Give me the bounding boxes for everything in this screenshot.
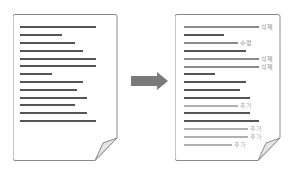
- right-arrow-icon: [130, 72, 170, 90]
- change-label: 추가: [250, 126, 262, 132]
- revised-document: 삭제수정삭제삭제추가추가추가추가: [175, 14, 281, 161]
- text-line: [20, 120, 96, 122]
- text-line: [184, 97, 250, 99]
- text-line: [20, 58, 96, 60]
- change-label: 추가: [240, 103, 252, 109]
- text-line: [184, 34, 224, 36]
- text-line: [184, 144, 232, 146]
- document-page-icon: [13, 14, 118, 161]
- text-line: [184, 112, 250, 114]
- change-label: 삭제: [261, 24, 273, 30]
- change-label: 수정: [240, 40, 252, 46]
- change-label: 삭제: [261, 56, 273, 62]
- change-label: 추가: [234, 142, 246, 148]
- text-line: [20, 26, 96, 28]
- text-line: [184, 58, 259, 60]
- text-line: [184, 136, 248, 138]
- text-line: [184, 73, 215, 75]
- text-line: [184, 26, 259, 28]
- text-line: [184, 50, 246, 52]
- text-line: [20, 104, 75, 106]
- text-line: [20, 42, 75, 44]
- text-line: [184, 128, 248, 130]
- document-page-icon: [175, 14, 281, 161]
- text-line: [184, 105, 238, 107]
- change-label: 추가: [250, 134, 262, 140]
- text-line: [184, 66, 259, 68]
- text-line: [20, 50, 83, 52]
- change-label: 삭제: [261, 64, 273, 70]
- text-line: [20, 112, 87, 114]
- text-line: [20, 73, 52, 75]
- text-line: [184, 120, 259, 122]
- text-line: [184, 89, 240, 91]
- text-line: [184, 42, 238, 44]
- text-line: [20, 97, 87, 99]
- text-line: [184, 81, 246, 83]
- text-line: [20, 65, 96, 67]
- original-document: [13, 14, 118, 161]
- text-line: [20, 34, 62, 36]
- text-line: [20, 81, 83, 83]
- text-line: [20, 89, 77, 91]
